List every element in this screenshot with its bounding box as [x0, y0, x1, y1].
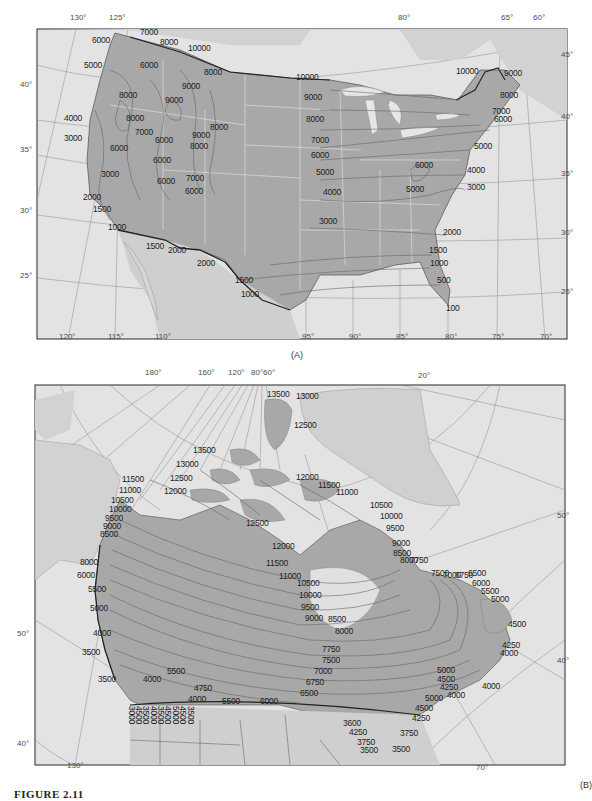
contour-label: 8500: [100, 530, 118, 539]
longitude-tick: 130°: [67, 762, 84, 770]
contour-label: 7750: [322, 645, 340, 654]
contour-label: 8500: [328, 615, 346, 624]
longitude-tick: 160°: [198, 369, 215, 377]
contour-label: 5500: [222, 697, 240, 706]
contour-label: 10500: [370, 501, 393, 510]
contour-label: 3500: [360, 746, 378, 755]
contour-label: 10000: [380, 512, 403, 521]
contour-label: 4000: [93, 629, 111, 638]
contour-label: 6750: [306, 678, 324, 687]
panel-b-label: (B): [580, 780, 592, 790]
contour-label: 8000: [335, 627, 353, 636]
contour-label: 4750: [194, 684, 212, 693]
contour-label: 5000: [425, 694, 443, 703]
contour-label: 4000: [482, 682, 500, 691]
contour-label: 11000: [336, 488, 358, 497]
contour-label: 12000: [296, 473, 319, 482]
contour-label: 12500: [170, 474, 193, 483]
contour-label: 4000: [188, 695, 206, 704]
contour-label: 8000: [80, 558, 98, 567]
contour-label: 4000: [143, 675, 161, 684]
latitude-tick: 40°: [17, 740, 29, 748]
contour-label: 7500: [322, 656, 340, 665]
contour-label: 4500: [508, 620, 526, 629]
contour-label: 11000: [119, 486, 141, 495]
contour-label-rotated: 3500: [187, 706, 196, 724]
contour-label: 9500: [301, 603, 319, 612]
contour-label: 12000: [164, 487, 187, 496]
longitude-tick: 70°: [476, 764, 488, 772]
contour-label: 6500: [300, 689, 318, 698]
contour-label: 6000: [260, 697, 278, 706]
contour-label: 9500: [386, 524, 404, 533]
figure-caption: FIGURE 2.11: [14, 788, 84, 800]
contour-label: 11500: [266, 559, 288, 568]
longitude-tick: 120°: [228, 369, 245, 377]
contour-label: 10500: [297, 579, 320, 588]
contour-label: 9000: [305, 614, 323, 623]
contour-label: 13000: [176, 460, 199, 469]
contour-label: 6500: [468, 569, 486, 578]
contour-label: 4250: [349, 728, 367, 737]
contour-label: 4250: [412, 714, 430, 723]
contour-label: 4000: [447, 691, 465, 700]
longitude-tick: 180°: [145, 369, 162, 377]
contour-label: 3750: [400, 729, 418, 738]
contour-label: 4000: [500, 649, 518, 658]
contour-label: 3500: [98, 675, 116, 684]
contour-label: 7000: [314, 667, 332, 676]
contour-label: 13500: [267, 390, 290, 399]
latitude-tick: 40°: [557, 657, 569, 665]
contour-label: 7750: [410, 556, 428, 565]
contour-label: 12000: [272, 542, 295, 551]
contour-label: 13000: [296, 392, 319, 401]
contour-label: 4500: [415, 704, 433, 713]
contour-label: 5000: [90, 604, 108, 613]
contour-label: 12500: [294, 421, 317, 430]
contour-label: 13500: [193, 446, 216, 455]
contour-label: 5500: [167, 667, 185, 676]
latitude-tick: 50°: [557, 512, 569, 520]
contour-label: 3500: [82, 648, 100, 657]
contour-label: 3500: [392, 745, 410, 754]
contour-label: 10000: [299, 591, 322, 600]
contour-label: 5000: [491, 595, 509, 604]
contour-label: 12500: [246, 519, 269, 528]
latitude-tick: 50°: [17, 630, 29, 638]
contour-label: 5500: [88, 585, 106, 594]
longitude-tick: 20°: [418, 372, 430, 380]
longitude-tick: 80°60°: [251, 369, 275, 377]
contour-label: 11500: [122, 475, 144, 484]
contour-label: 6000: [77, 571, 95, 580]
contour-label: 9000: [392, 539, 410, 548]
